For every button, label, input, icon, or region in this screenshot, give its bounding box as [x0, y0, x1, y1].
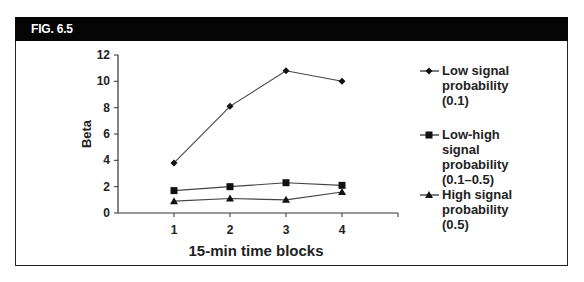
legend-markers	[420, 68, 439, 199]
series-triangle	[170, 188, 346, 204]
legend-item-line: Low-high	[442, 127, 508, 142]
series-group	[170, 67, 346, 204]
diamond-marker	[339, 78, 346, 85]
series-diamond	[171, 67, 346, 166]
square-marker	[283, 179, 290, 186]
triangle-marker	[226, 195, 234, 202]
legend-item-line: (0.1–0.5)	[442, 172, 508, 187]
x-tick-label: 3	[283, 223, 290, 237]
axes: 0246810121234	[97, 48, 398, 237]
y-tick-label: 12	[97, 48, 111, 62]
x-axis-label: 15-min time blocks	[188, 242, 323, 259]
y-axis-label: Beta	[79, 119, 94, 148]
legend-item-line: probability	[442, 78, 509, 93]
diamond-marker	[426, 68, 433, 75]
legend-item: Low signalprobability(0.1)	[442, 63, 509, 108]
x-tick-label: 1	[171, 223, 178, 237]
legend-item-line: (0.1)	[442, 93, 509, 108]
diamond-marker	[283, 67, 290, 74]
y-tick-label: 2	[103, 180, 110, 194]
legend-item: High signalprobability(0.5)	[442, 187, 512, 232]
series-square	[171, 179, 346, 194]
legend-item-line: probability	[442, 157, 508, 172]
x-tick-label: 2	[227, 223, 234, 237]
y-tick-label: 4	[103, 153, 110, 167]
square-marker	[171, 187, 178, 194]
legend-item-line: (0.5)	[442, 217, 512, 232]
x-tick-label: 4	[339, 223, 346, 237]
legend-item-line: Low signal	[442, 63, 509, 78]
legend-item-line: High signal	[442, 187, 512, 202]
y-tick-label: 10	[97, 74, 111, 88]
triangle-marker	[338, 188, 346, 195]
legend-item: Low-highsignalprobability(0.1–0.5)	[442, 127, 508, 187]
y-tick-label: 6	[103, 127, 110, 141]
square-marker	[227, 183, 234, 190]
y-tick-label: 0	[103, 206, 110, 220]
legend-item-line: probability	[442, 202, 512, 217]
y-tick-label: 8	[103, 101, 110, 115]
square-marker	[426, 132, 433, 139]
square-marker	[339, 182, 346, 189]
legend-item-line: signal	[442, 142, 508, 157]
